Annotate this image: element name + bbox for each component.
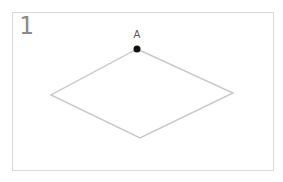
vertex-a-point[interactable]: [134, 46, 141, 53]
rhombus-shape: [51, 49, 233, 138]
vertex-a-label: A: [134, 29, 141, 40]
diagram-canvas: A: [0, 0, 283, 182]
